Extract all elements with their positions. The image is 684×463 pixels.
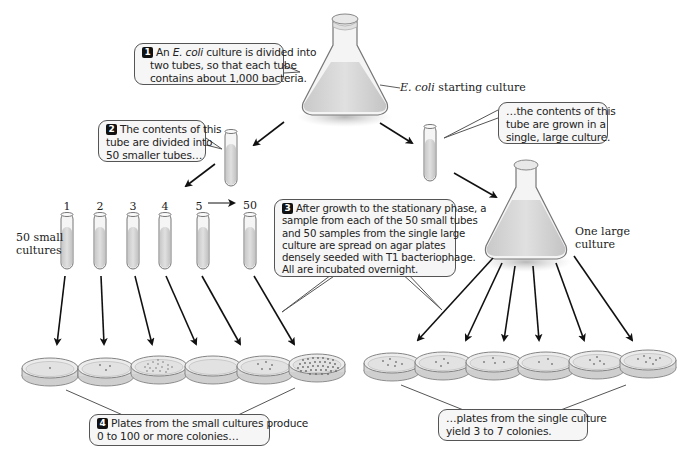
tube-left-icon [225, 130, 237, 187]
step-4-badge: 4 [97, 418, 108, 429]
tube-right-icon [424, 125, 436, 182]
small-culture-plates [22, 354, 345, 386]
tube-number-5: 5 [189, 200, 209, 213]
large-culture-flask-icon [480, 160, 572, 272]
tube-number-1: 1 [57, 200, 77, 213]
step-3-badge: 3 [282, 203, 293, 214]
step-1-callout: 1An E. coli culture is divided into two … [134, 43, 284, 85]
starting-culture-label: E. coli starting culture [400, 81, 526, 94]
tube-number-50: 50 [240, 199, 260, 212]
arrows-to-small-plates [57, 276, 294, 344]
step-1-badge: 1 [142, 47, 153, 58]
tube-number-4: 4 [155, 200, 175, 213]
tube-number-3: 3 [123, 200, 143, 213]
step-2b-callout: …the contents of this tube are grown in … [498, 102, 608, 144]
small-culture-tubes [61, 213, 256, 270]
large-culture-plates [364, 350, 676, 381]
starting-culture-flask-icon [297, 14, 393, 127]
tube-number-2: 2 [90, 200, 110, 213]
step-3-callout: 3After growth to the stationary phase, a… [274, 199, 456, 277]
step-4b-callout: …plates from the single culture yield 3 … [438, 409, 588, 441]
step-2-badge: 2 [106, 124, 117, 135]
step-4-callout: 4Plates from the small cultures produce … [89, 414, 270, 446]
small-cultures-label: 50 small cultures [16, 231, 56, 257]
large-culture-label: One large culture [575, 225, 630, 251]
step-2-callout: 2The contents of this tube are divided i… [98, 120, 206, 162]
